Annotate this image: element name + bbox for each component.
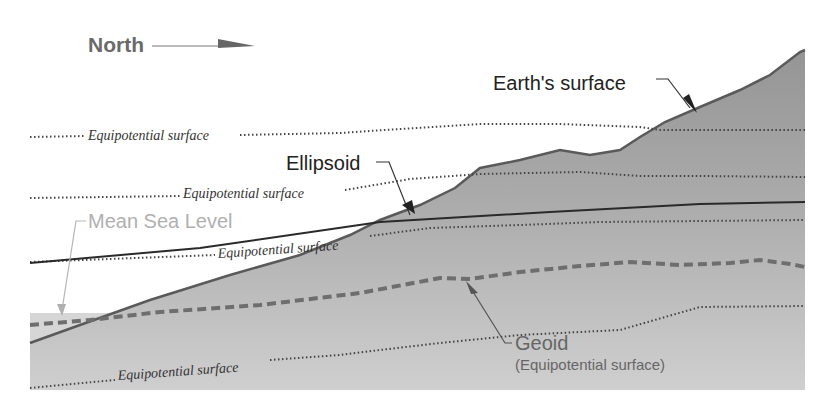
msl-leader xyxy=(62,221,86,310)
equipotential-label-1: Equipotential surface xyxy=(87,128,209,143)
equipotential-label-2: Equipotential surface xyxy=(182,186,304,201)
ellipsoid-label: Ellipsoid xyxy=(286,152,360,174)
geoid-label: Geoid xyxy=(515,332,568,354)
ellipsoid-leader xyxy=(376,162,410,215)
north-label: North xyxy=(88,33,144,56)
geodesy-diagram: North Earth's surface Ellipsoid Mean Sea… xyxy=(0,0,828,410)
earth-surface-label: Earth's surface xyxy=(493,72,626,94)
mean-sea-level-label: Mean Sea Level xyxy=(88,210,233,232)
earth-surface-leader xyxy=(656,79,690,108)
geoid-sublabel: (Equipotential surface) xyxy=(515,356,665,373)
north-arrow-head xyxy=(218,39,255,48)
